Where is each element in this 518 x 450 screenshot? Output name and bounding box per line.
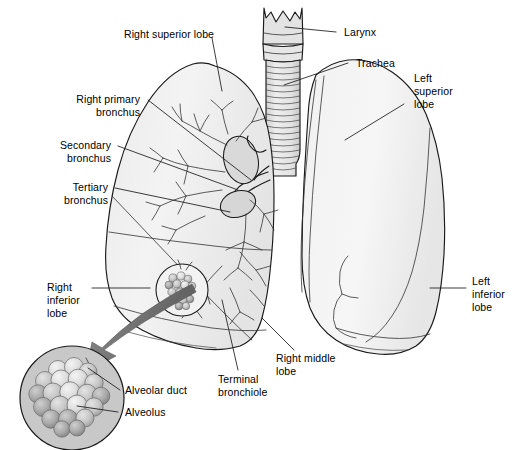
larynx (263, 8, 303, 62)
label-left-superior-lobe: Left superior lobe (414, 72, 453, 110)
label-text-line3: lobe (47, 307, 67, 319)
label-text: Larynx (344, 26, 377, 38)
label-text-line3: lobe (472, 301, 492, 313)
label-alveolar-duct: Alveolar duct (125, 384, 187, 396)
label-terminal-bronchiole: Terminal bronchiole (218, 373, 268, 398)
label-right-primary-bronchus: Right primary bronchus (76, 93, 140, 118)
label-secondary-bronchus: Secondary bronchus (60, 139, 112, 164)
label-text-line1: Right primary (76, 93, 140, 105)
label-text-line1: Left (414, 72, 432, 84)
label-left-inferior-lobe: Left inferior lobe (472, 275, 505, 313)
label-right-inferior-lobe: Right inferior lobe (47, 281, 80, 319)
alveoli-magnified-circle (20, 346, 124, 450)
label-text: Alveolar duct (125, 384, 187, 396)
label-text-line2: lobe (276, 365, 296, 377)
label-tertiary-bronchus: Tertiary bronchus (64, 181, 109, 206)
label-text-line1: Tertiary (73, 181, 109, 193)
label-text-line2: bronchus (64, 194, 108, 206)
label-text-line2: bronchiole (218, 386, 268, 398)
label-trachea: Trachea (356, 57, 395, 69)
label-text-line1: Left (472, 275, 490, 287)
label-text-line2: bronchus (96, 106, 140, 118)
label-right-superior-lobe: Right superior lobe (124, 28, 214, 40)
label-text: Alveolus (125, 406, 166, 418)
anatomy-figure: Right superior lobe Right primary bronch… (0, 0, 518, 450)
label-text-line1: Right (47, 281, 72, 293)
label-right-middle-lobe: Right middle lobe (276, 352, 336, 377)
label-text-line1: Terminal (218, 373, 258, 385)
label-alveolus: Alveolus (125, 406, 166, 418)
label-text-line2: bronchus (67, 152, 111, 164)
label-larynx: Larynx (344, 26, 377, 38)
label-text-line1: Right middle (276, 352, 336, 364)
label-text-line2: inferior (47, 294, 80, 306)
leader-right-middle-lobe (262, 318, 294, 350)
label-text-line3: lobe (414, 98, 434, 110)
label-text: Trachea (356, 57, 395, 69)
label-text-line1: Secondary (60, 139, 112, 151)
label-text-line2: superior (414, 85, 453, 97)
lung-anatomy-diagram: Right superior lobe Right primary bronch… (0, 0, 518, 450)
label-text: Right superior lobe (124, 28, 214, 40)
label-text-line2: inferior (472, 288, 505, 300)
